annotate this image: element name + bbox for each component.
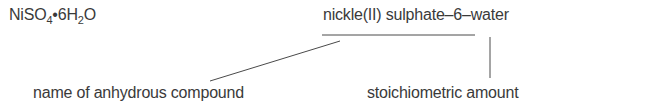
anhydrous-compound-label: name of anhydrous compound [33,84,244,102]
stoichiometric-amount-label: stoichiometric amount [367,84,518,102]
anhydrous-pointer-line [210,41,340,81]
